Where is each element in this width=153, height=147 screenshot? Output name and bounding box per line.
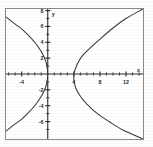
x-tick-label: -4 <box>19 79 24 85</box>
x-axis-label: x <box>137 67 140 73</box>
x-tick-label: 4 <box>72 79 75 85</box>
y-tick-label: 2 <box>41 55 44 61</box>
y-tick-label: 4 <box>41 39 44 45</box>
axis-labels-group: xy <box>52 11 140 73</box>
y-tick-label: -2 <box>39 87 44 93</box>
x-tick-label: 8 <box>98 79 101 85</box>
plot-canvas: -448128642-2-4-6 xy <box>6 9 143 139</box>
tick-labels-group: -448128642-2-4-6 <box>19 9 129 125</box>
ticks-group <box>9 11 139 130</box>
y-tick-label: -4 <box>39 103 44 109</box>
graph-figure: -448128642-2-4-6 xy <box>0 0 153 147</box>
x-tick-label: 12 <box>123 79 129 85</box>
y-axis-label: y <box>52 11 55 17</box>
plot-frame: -448128642-2-4-6 xy <box>5 8 144 140</box>
y-tick-label: 6 <box>41 23 44 29</box>
y-tick-label: 8 <box>41 9 44 14</box>
y-tick-label: -6 <box>39 119 44 125</box>
